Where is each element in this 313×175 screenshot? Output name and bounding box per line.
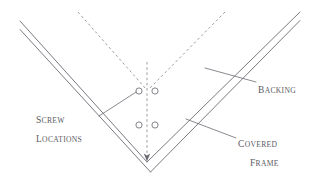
covered-frame-label: COVERED FRAME: [238, 133, 279, 171]
dashed-diagonal-right: [149, 12, 225, 89]
covered-frame-lead-cap-1: C: [238, 139, 245, 149]
frame-left-inner-line: [20, 30, 151, 173]
backing-label: BACKING: [258, 79, 296, 98]
covered-frame-rest-2: RAME: [256, 159, 279, 168]
backing-lead-cap: B: [258, 85, 265, 95]
screw-upper-left-icon: [136, 88, 142, 94]
covered-frame-label-line-2: FRAME: [250, 152, 279, 171]
screw-locations-rest-1: CREW: [42, 116, 65, 125]
screw-upper-right-icon: [152, 88, 158, 94]
screw-locations-label-line-2: LOCATIONS: [36, 128, 82, 147]
frame-corner-diagram: SCREW LOCATIONS BACKING COVERED FRAME: [0, 0, 313, 175]
screw-locations-rest-2: OCATIONS: [42, 135, 82, 144]
backing-label-line-1: BACKING: [258, 79, 296, 98]
screw-locations-label: SCREW LOCATIONS: [36, 109, 82, 147]
construction-lines: [78, 12, 225, 155]
backing-rest: ACKING: [265, 86, 296, 95]
screw-locations-label-line-1: SCREW: [36, 109, 82, 128]
covered-frame-rest-1: OVERED: [245, 140, 278, 149]
screw-locations-leader-line: [99, 92, 136, 116]
screw-lower-right-icon: [152, 122, 158, 128]
covered-frame-label-line-1: COVERED: [238, 133, 279, 152]
screw-lower-left-icon: [136, 122, 142, 128]
dashed-diagonal-left: [78, 12, 146, 89]
